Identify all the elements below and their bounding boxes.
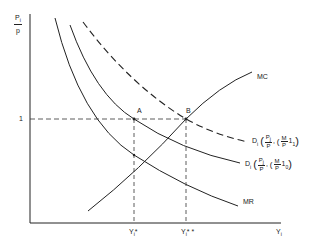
x-axis-label: Yi — [276, 228, 282, 237]
demand-lower-label: Di (PjP, (MP10) — [245, 157, 292, 172]
diagram-canvas — [0, 0, 329, 252]
y-label-denominator: p — [16, 25, 20, 34]
mc-label: MC — [257, 73, 268, 80]
d-upper-frac2: MP — [281, 135, 288, 148]
y-label-numerator-sub: i — [20, 17, 21, 23]
y-axis-label: Pi p — [14, 14, 22, 34]
mc-curve — [88, 72, 252, 211]
point-b-label: B — [186, 107, 191, 114]
d-lower-prefix-sub: i — [250, 164, 251, 170]
mr-curve — [55, 18, 238, 206]
demand-curve-upper — [83, 22, 248, 142]
point-a-label: A — [137, 107, 142, 114]
x-tick-y-star: Yi* — [129, 228, 138, 237]
d-lower-frac2: MP — [274, 158, 281, 171]
demand-upper-label: Di (PjP, (MP11) — [252, 134, 299, 149]
d-lower-frac1: PjP — [258, 157, 265, 172]
point-a-marker — [133, 118, 136, 121]
x-tick-y-dstar: Yi* * — [181, 228, 194, 237]
d-upper-prefix-sub: i — [257, 141, 258, 147]
mc-mr-intersection-marker — [133, 154, 135, 156]
d-upper-frac1: PjP — [265, 134, 272, 149]
point-b-marker — [185, 118, 188, 121]
y-tick-1: 1 — [19, 115, 23, 122]
mr-label: MR — [243, 198, 254, 205]
